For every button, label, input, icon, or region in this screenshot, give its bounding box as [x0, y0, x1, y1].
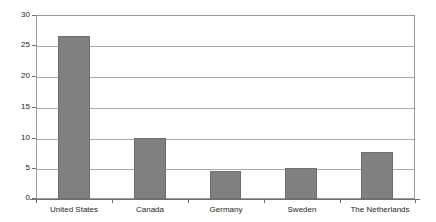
bar-united-states[interactable]: [58, 36, 90, 199]
x-tick-label-the-netherlands: The Netherlands: [340, 205, 420, 215]
bar-germany[interactable]: [210, 171, 242, 199]
bar-chart: 30 25 20 15 10 5 0 United States Canada …: [0, 0, 436, 222]
y-tick-label-20: 20: [4, 72, 30, 80]
bar-sweden[interactable]: [285, 168, 317, 199]
x-tick-label-germany: Germany: [188, 205, 264, 215]
y-tick-label-25: 25: [4, 41, 30, 49]
x-tick-mark-1: [112, 199, 113, 203]
x-tick-label-canada: Canada: [112, 205, 188, 215]
x-tick-mark-2: [188, 199, 189, 203]
x-tick-mark-3: [264, 199, 265, 203]
bar-the-netherlands[interactable]: [361, 152, 393, 199]
x-tick-mark-0: [36, 199, 37, 203]
x-tick-label-sweden: Sweden: [264, 205, 340, 215]
y-tick-label-10: 10: [4, 134, 30, 142]
y-tick-label-30: 30: [4, 11, 30, 19]
x-tick-mark-4: [340, 199, 341, 203]
x-axis-line: [30, 199, 420, 200]
y-tick-label-15: 15: [4, 103, 30, 111]
bars-layer: [36, 15, 415, 199]
x-tick-label-united-states: United States: [36, 205, 112, 215]
x-tick-mark-5: [415, 199, 416, 203]
y-tick-label-0: 0: [4, 194, 30, 202]
bar-canada[interactable]: [134, 138, 166, 199]
y-tick-label-5: 5: [4, 164, 30, 172]
y-axis-labels: 30 25 20 15 10 5 0: [0, 15, 30, 199]
